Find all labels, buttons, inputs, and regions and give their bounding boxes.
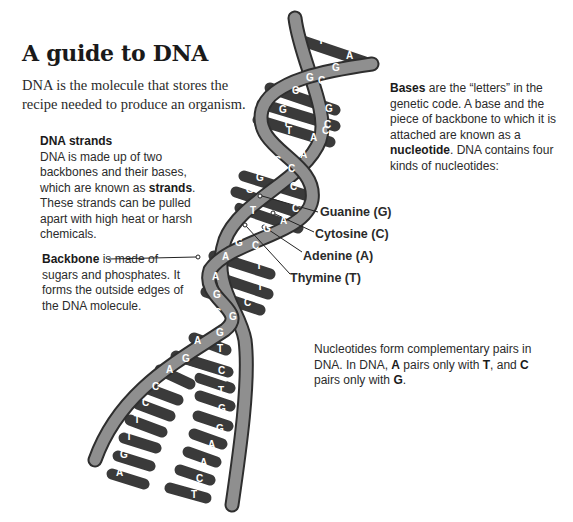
base-letter: A: [166, 364, 173, 375]
base-letter: G: [213, 289, 221, 300]
base-letter: G: [235, 237, 243, 248]
base-letter: C: [244, 297, 251, 308]
nucleotide-label: Guanine (G): [320, 205, 392, 219]
base-letter: G: [263, 223, 271, 234]
base-letter: G: [256, 172, 264, 183]
base-letter: C: [318, 75, 325, 86]
base-letter: C: [292, 85, 299, 96]
base-letter: G: [332, 62, 340, 73]
base-letter: G: [120, 449, 128, 460]
base-letter: A: [200, 457, 207, 468]
base-letter: A: [116, 467, 123, 478]
base-letter: G: [216, 423, 224, 434]
nucleotide-label: Adenine (A): [303, 249, 373, 263]
base-letter: C: [152, 381, 159, 392]
dna-helix-illustration: TACGGCCGGCTCTATACCGCGCTAGGCATATGCCGCGATG…: [0, 0, 573, 522]
base-letter: A: [300, 149, 307, 160]
base-letter: A: [346, 50, 353, 61]
base-letter: T: [217, 343, 223, 354]
base-letter: T: [191, 489, 197, 500]
nucleotide-label: Thymine (T): [290, 271, 361, 285]
base-letter: A: [212, 271, 219, 282]
base-letter: C: [292, 203, 299, 214]
base-letter: T: [283, 117, 289, 128]
nucleotide-label: Cytosine (C): [315, 227, 389, 241]
base-letter: G: [279, 104, 287, 115]
base-letter: C: [204, 322, 211, 333]
base-letter: A: [208, 439, 215, 450]
base-letter: T: [218, 385, 224, 396]
base-letter: T: [318, 35, 324, 46]
base-letter: C: [316, 55, 323, 66]
base-letter: T: [256, 260, 262, 271]
base-letter: C: [290, 181, 297, 192]
base-letter: A: [194, 335, 201, 346]
base-letter: G: [325, 103, 333, 114]
base-letter: A: [310, 132, 317, 143]
base-letter: G: [216, 327, 224, 338]
base-letter: A: [280, 215, 287, 226]
base-letter: G: [182, 353, 190, 364]
base-letter: G: [306, 72, 314, 83]
base-letter: G: [246, 184, 254, 195]
base-letter: G: [229, 311, 237, 322]
base-letter: C: [252, 240, 259, 251]
base-letter: T: [250, 205, 256, 216]
base-letter: C: [274, 155, 281, 166]
base-letter: C: [218, 365, 225, 376]
base-letter: C: [288, 163, 295, 174]
base-letter: T: [257, 281, 263, 292]
base-letter: C: [196, 473, 203, 484]
base-letter: C: [214, 307, 221, 318]
base-letter: A: [222, 251, 229, 262]
base-letter: G: [218, 403, 226, 414]
base-letter: C: [142, 397, 149, 408]
base-letter: T: [134, 414, 140, 425]
base-letter: T: [126, 431, 132, 442]
base-letter: C: [324, 119, 331, 130]
